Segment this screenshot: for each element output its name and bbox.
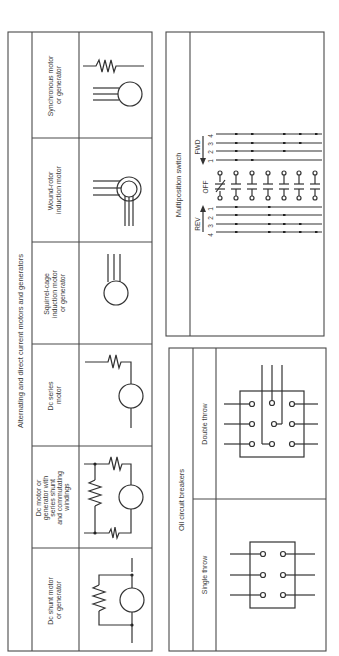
dc-shunt-motor-icon bbox=[93, 558, 144, 643]
contact-5 bbox=[279, 171, 289, 200]
row-label-single-throw: Single throw bbox=[201, 555, 209, 594]
row-label-double-throw: Double throw bbox=[201, 402, 208, 444]
row-label-dc-series: Dc series motor bbox=[47, 379, 62, 410]
wound-rotor-motor-icon bbox=[93, 177, 141, 226]
breakers-table-title: Oil circuit breakers bbox=[177, 469, 186, 531]
rev-label: REV bbox=[194, 217, 201, 231]
rev-position-3: 3 bbox=[207, 224, 214, 228]
motors-table: Alternating and direct current motors an… bbox=[8, 32, 152, 651]
switch-table-title: Multiposition switch bbox=[174, 153, 183, 218]
off-label: OFF bbox=[202, 180, 209, 193]
fwd-arrow-icon bbox=[200, 158, 206, 165]
rev-position-4: 4 bbox=[207, 233, 214, 237]
motors-table-title: Alternating and direct current motors an… bbox=[16, 254, 25, 428]
breakers-table: Oil circuit breakers Double throw Single… bbox=[169, 348, 326, 651]
switch-table: Multiposition switch FWD 4 3 2 1 OFF bbox=[166, 32, 324, 336]
contact-4 bbox=[263, 171, 273, 200]
contact-1 bbox=[215, 171, 225, 200]
rev-connection-dots bbox=[235, 206, 318, 233]
rev-position-1: 1 bbox=[207, 207, 214, 211]
fwd-label: FWD bbox=[194, 139, 201, 154]
row-label-synchronous: Synchronous motor or generator bbox=[47, 54, 63, 117]
rev-arrow-icon bbox=[200, 205, 206, 212]
switch-contacts bbox=[215, 171, 320, 200]
dc-compound-motor-icon bbox=[84, 457, 143, 538]
row-label-dc-compound: Dc motor or generator with series shunt … bbox=[35, 469, 71, 525]
electrical-symbols-diagram: Alternating and direct current motors an… bbox=[0, 0, 339, 656]
contact-7 bbox=[310, 171, 320, 200]
dc-series-motor-icon bbox=[85, 355, 143, 428]
row-label-wound-rotor: Wound-rotor induction motor bbox=[47, 165, 62, 214]
squirrel-cage-motor-icon bbox=[104, 254, 128, 305]
motors-table-frame bbox=[8, 32, 152, 651]
contact-2 bbox=[231, 171, 241, 200]
single-throw-breaker-icon bbox=[230, 542, 315, 608]
row-label-squirrel-cage: Squirrel-cage induction motor or generat… bbox=[43, 268, 67, 318]
contact-3 bbox=[247, 171, 257, 200]
fwd-connection-dots bbox=[235, 133, 318, 161]
contact-6 bbox=[294, 171, 304, 200]
fwd-position-3: 3 bbox=[207, 142, 214, 146]
fwd-position-2: 2 bbox=[207, 150, 214, 154]
rev-position-2: 2 bbox=[207, 216, 214, 220]
fwd-position-4: 4 bbox=[207, 134, 214, 138]
row-label-dc-shunt: Dc shunt motor or generator bbox=[47, 575, 63, 624]
double-throw-breaker-icon bbox=[224, 365, 318, 457]
fwd-position-1: 1 bbox=[207, 159, 214, 163]
synchronous-motor-icon bbox=[83, 60, 144, 106]
